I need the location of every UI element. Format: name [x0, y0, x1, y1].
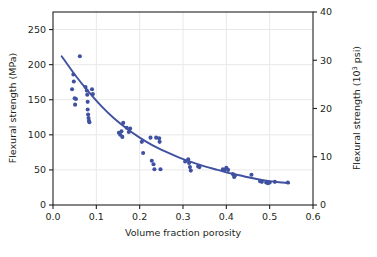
data-point: [249, 173, 253, 177]
data-point: [87, 120, 91, 124]
x-tick-label: 0.2: [132, 211, 147, 222]
data-point: [140, 140, 144, 144]
data-point: [121, 121, 125, 125]
data-point: [86, 100, 90, 104]
data-point: [157, 136, 161, 140]
y-tick-label-left: 50: [34, 164, 46, 175]
data-point: [78, 54, 82, 58]
y-tick-label-right: 10: [320, 151, 332, 162]
data-point: [83, 85, 87, 89]
data-point: [151, 162, 155, 166]
data-point: [233, 173, 237, 177]
data-point: [150, 159, 154, 163]
data-point: [86, 112, 90, 116]
y-axis-right-title: Flexural strength (103 psi): [351, 46, 362, 170]
svg-text:Flexural strength (103 psi): Flexural strength (103 psi): [351, 46, 362, 170]
data-point: [85, 89, 89, 93]
data-point: [148, 136, 152, 140]
data-point: [120, 135, 124, 139]
y-axis-right-title-tail: psi): [351, 46, 362, 66]
y-tick-label-right: 30: [320, 55, 332, 66]
y-axis-right-title-main: Flexural strength (10: [351, 70, 362, 170]
x-tick-label: 0.1: [89, 211, 104, 222]
data-point: [125, 126, 129, 130]
y-tick-label-left: 150: [28, 94, 46, 105]
data-point: [73, 103, 77, 107]
data-point: [186, 157, 190, 161]
data-point: [152, 167, 156, 171]
x-axis-title: Volume fraction porosity: [125, 227, 242, 238]
data-point: [226, 168, 230, 172]
x-tick-label: 0.5: [262, 211, 277, 222]
data-point: [70, 87, 74, 91]
data-point: [91, 92, 95, 96]
y-tick-label-left: 100: [28, 129, 46, 140]
data-point: [74, 97, 78, 101]
y-tick-label-right: 40: [320, 6, 332, 17]
x-tick-label: 0.6: [305, 211, 320, 222]
data-point: [90, 87, 94, 91]
y-tick-label-left: 250: [28, 24, 46, 35]
data-point: [128, 126, 132, 130]
data-point: [141, 151, 145, 155]
x-tick-label: 0.3: [175, 211, 190, 222]
y-tick-label-left: 0: [40, 199, 46, 210]
data-point: [158, 140, 162, 144]
data-point: [72, 79, 76, 83]
scatter-plot: 0.00.10.20.30.40.50.6 050100150200250 01…: [0, 0, 377, 257]
x-tick-label: 0.4: [219, 211, 234, 222]
data-point: [85, 93, 89, 97]
data-point: [158, 167, 162, 171]
y-axis-left-title: Flexural strength (MPa): [7, 53, 18, 164]
data-point: [189, 169, 193, 173]
y-tick-label-left: 200: [28, 59, 46, 70]
x-tick-label: 0.0: [45, 211, 60, 222]
data-point: [268, 180, 272, 184]
data-point: [273, 180, 277, 184]
y-tick-label-right: 0: [320, 199, 326, 210]
data-point: [127, 130, 131, 134]
data-point: [187, 161, 191, 165]
data-point: [86, 108, 90, 112]
data-point: [197, 165, 201, 169]
data-point: [188, 165, 192, 169]
y-tick-label-right: 20: [320, 103, 332, 114]
data-point: [286, 180, 290, 184]
chart-figure: 0.00.10.20.30.40.50.6 050100150200250 01…: [0, 0, 377, 257]
data-point: [119, 129, 123, 133]
data-point: [260, 180, 264, 184]
data-point: [71, 72, 75, 76]
